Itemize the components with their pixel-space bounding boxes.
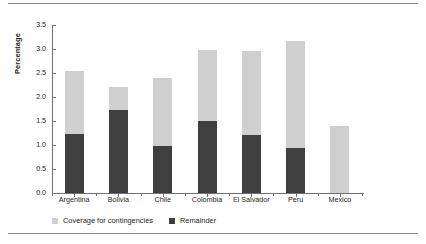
y-axis-tick-label: 3.5	[18, 21, 46, 28]
legend-label: Remainder	[180, 217, 216, 225]
x-axis-category-label: Peru	[273, 196, 317, 204]
bottom-divider-rule	[8, 233, 418, 234]
bar-segment-coverage	[242, 51, 261, 135]
x-axis-category-label: Colombia	[185, 196, 229, 204]
bar-stack	[153, 25, 172, 193]
y-axis-tick-label: 0.5	[18, 165, 46, 172]
bar-segment-coverage	[286, 41, 305, 148]
legend-swatch-icon	[52, 218, 58, 224]
legend-label: Coverage for contingencies	[63, 217, 153, 225]
bar-segment-coverage	[109, 87, 128, 110]
bar-stack	[198, 25, 217, 193]
x-axis-category-label: El Salvador	[229, 196, 273, 204]
bar-segment-coverage	[153, 78, 172, 147]
bar-segment-remainder	[198, 121, 217, 193]
bar-stack	[65, 25, 84, 193]
bar-stack	[242, 25, 261, 193]
chart-legend: Coverage for contingenciesRemainder	[52, 215, 232, 227]
legend-item: Remainder	[169, 217, 216, 225]
legend-swatch-icon	[169, 218, 175, 224]
x-axis-category-label: Argentina	[52, 196, 96, 204]
bar-segment-coverage	[65, 71, 84, 134]
bar-segment-coverage	[198, 50, 217, 121]
y-axis-tick-label: 3.0	[18, 45, 46, 52]
y-axis-tick-label: 1.5	[18, 117, 46, 124]
bar-stack	[286, 25, 305, 193]
bar-segment-remainder	[109, 110, 128, 193]
bar-segment-coverage	[330, 126, 349, 193]
plot-area	[52, 25, 362, 193]
x-axis-category-label: Mexico	[318, 196, 362, 204]
bar-segment-remainder	[153, 146, 172, 193]
y-axis-tick-label: 0.0	[18, 189, 46, 196]
x-axis-boundary-tick	[362, 194, 363, 196]
top-divider-rule	[8, 3, 418, 4]
y-axis-title: Percentage	[13, 33, 22, 74]
chart-figure: Percentage 0.00.51.01.52.02.53.03.5 Arge…	[0, 0, 426, 244]
x-axis-category-label: Bolivia	[96, 196, 140, 204]
y-axis-tick-label: 2.5	[18, 69, 46, 76]
bar-stack	[109, 25, 128, 193]
y-axis-tick-label: 1.0	[18, 141, 46, 148]
bar-segment-remainder	[242, 135, 261, 193]
bar-segment-remainder	[65, 134, 84, 193]
bar-segment-remainder	[286, 148, 305, 193]
y-axis-tick-label: 2.0	[18, 93, 46, 100]
x-axis-category-label: Chile	[141, 196, 185, 204]
legend-item: Coverage for contingencies	[52, 217, 153, 225]
bar-stack	[330, 25, 349, 193]
